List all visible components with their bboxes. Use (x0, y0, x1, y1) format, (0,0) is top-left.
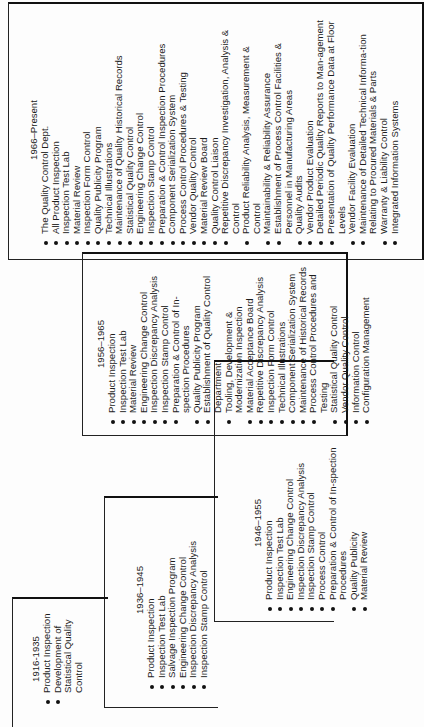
list-item: The Quality Control Dept. (40, 14, 51, 246)
list-item: Material Review (359, 434, 370, 612)
list-item: Configuration Management (361, 263, 372, 425)
list-item: Product Inspection (42, 613, 53, 705)
list-item: Integrated Information Systems (390, 14, 401, 246)
list-item: Inspection Stamp Control (199, 490, 210, 690)
list-item: Product Inspection (146, 490, 157, 690)
period-item-list: Product Inspection Development of Statis… (42, 613, 84, 705)
period-panel-1946-1955: 1946–1955 Product Inspection Inspection … (252, 434, 370, 612)
list-item: Establishment of Process Control Facilit… (273, 14, 294, 246)
list-item: Product Inspection (107, 263, 118, 425)
list-item: Quality Publicity Program (93, 14, 104, 246)
period-panel-1936-1945: 1936–1945 Product Inspection Inspection … (134, 490, 210, 690)
list-item: Product Reliability Analysis, Measuremen… (241, 14, 262, 246)
list-item: Maintenance of Detailed Technical Inform… (358, 14, 379, 246)
period-title: 1966–Present (28, 14, 39, 246)
list-item: Preparation & Control of In-spection Pro… (171, 263, 192, 425)
list-item: Process Control (317, 434, 328, 612)
list-item: Product Inspection (264, 434, 275, 612)
list-item: Material Review Board (199, 14, 210, 246)
list-item: Repetitive Discrepancy Investigation, An… (220, 14, 241, 246)
list-item: Presentation of Quality Performance Data… (326, 14, 347, 246)
period-item-list: Product Inspection Inspection Test Lab S… (146, 490, 210, 690)
period-title: 1946–1955 (252, 434, 263, 612)
period-title: 1916-1935 (30, 613, 41, 705)
list-item: Inspection Stamp Control (160, 263, 171, 425)
period-title: 1936–1945 (134, 490, 145, 690)
list-item: Development of Statistical Quality Contr… (53, 613, 85, 705)
period-item-list: The Quality Control Dept. All Product In… (40, 14, 400, 246)
period-panel-1966-present: 1966–Present The Quality Control Dept. A… (28, 14, 400, 246)
period-item-list: Product Inspection Inspection Test Lab E… (264, 434, 370, 612)
period-panel-1916-1935: 1916-1935 Product Inspection Development… (30, 613, 84, 705)
list-item: Inspection Stamp Control (146, 14, 157, 246)
list-item: Warranty & Liability Control (379, 14, 390, 246)
list-item: Preparation & Control of In-spection Pro… (328, 434, 349, 612)
period-title: 1956–1965 (95, 263, 106, 425)
